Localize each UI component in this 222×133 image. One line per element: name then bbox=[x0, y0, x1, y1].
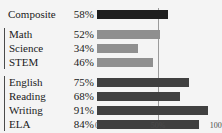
bar bbox=[97, 44, 138, 53]
bar bbox=[97, 92, 180, 101]
chart-row: STEM46% bbox=[0, 57, 222, 68]
axis-tick-0: 0 bbox=[95, 121, 99, 131]
row-value: 68% bbox=[46, 90, 94, 102]
row-label: Reading bbox=[9, 90, 46, 102]
row-label: English bbox=[9, 76, 43, 88]
row-value: 52% bbox=[46, 28, 94, 40]
x-axis: 050%100% bbox=[0, 121, 222, 133]
chart-row: English75% bbox=[0, 77, 222, 88]
bar-track bbox=[97, 43, 219, 54]
row-label: Writing bbox=[9, 104, 43, 116]
row-value: 75% bbox=[46, 76, 94, 88]
horizontal-bar-chart: Composite58%Math52%Science34%STEM46%Engl… bbox=[0, 0, 222, 133]
bar-track bbox=[97, 9, 219, 20]
row-label: Math bbox=[9, 28, 32, 40]
axis-tick-100: 100% bbox=[210, 121, 222, 131]
bar-track bbox=[97, 77, 219, 88]
bar bbox=[97, 10, 168, 19]
bar bbox=[97, 106, 208, 115]
chart-row: Composite58% bbox=[0, 9, 222, 20]
bar-track bbox=[97, 91, 219, 102]
chart-row: Writing91% bbox=[0, 105, 222, 116]
chart-row: Math52% bbox=[0, 29, 222, 40]
row-value: 46% bbox=[46, 56, 94, 68]
bar-track bbox=[97, 29, 219, 40]
row-label: Science bbox=[9, 42, 43, 54]
chart-row: Reading68% bbox=[0, 91, 222, 102]
row-value: 91% bbox=[46, 104, 94, 116]
bar-track bbox=[97, 105, 219, 116]
chart-row: Science34% bbox=[0, 43, 222, 54]
row-value: 34% bbox=[46, 42, 94, 54]
group-bracket bbox=[4, 28, 5, 69]
row-label: STEM bbox=[9, 56, 38, 68]
axis-tick-50: 50% bbox=[151, 121, 166, 131]
bar bbox=[97, 30, 160, 39]
bar bbox=[97, 78, 189, 87]
bar-track bbox=[97, 57, 219, 68]
bar bbox=[97, 58, 153, 67]
row-value: 58% bbox=[46, 8, 94, 20]
